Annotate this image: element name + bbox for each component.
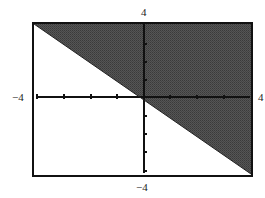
y-max-label: 4 bbox=[141, 7, 147, 18]
inequality-graph bbox=[0, 0, 265, 198]
x-max-label: 4 bbox=[258, 92, 264, 103]
y-min-label: −4 bbox=[136, 182, 148, 193]
x-min-label: −4 bbox=[12, 92, 24, 103]
